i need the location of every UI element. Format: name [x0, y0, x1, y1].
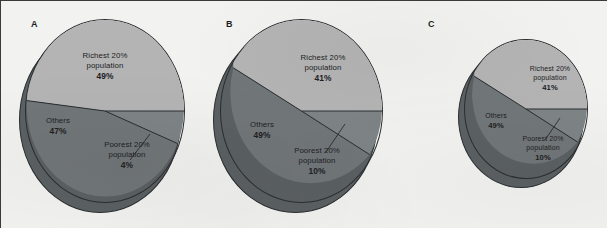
label-richest-a-pct: 49% [55, 71, 155, 81]
label-richest-c: Richest 20% population 41% [504, 65, 596, 92]
pie-chart-a: Richest 20% population 49% Others 47% Po… [19, 19, 189, 214]
label-poorest-b-line2: population [271, 156, 363, 166]
pie-panel-b: B [201, 1, 406, 228]
label-others-b-line1: Others [231, 120, 293, 130]
label-poorest-c: Poorest 20% population 10% [500, 135, 586, 162]
label-richest-b-pct: 41% [273, 73, 373, 83]
label-poorest-a-pct: 4% [81, 160, 173, 170]
pie-chart-c: Richest 20% population 41% Others 49% Po… [458, 39, 598, 189]
label-richest-c-pct: 41% [504, 83, 596, 92]
label-poorest-b: Poorest 20% population 10% [271, 146, 363, 176]
label-richest-b-line2: population [273, 63, 373, 73]
label-others-c-line1: Others [468, 112, 524, 121]
pie-slices-a [26, 20, 184, 202]
label-others-a-pct: 47% [27, 126, 89, 136]
pie-face-a [25, 19, 185, 203]
label-poorest-c-line1: Poorest 20% [500, 135, 586, 144]
label-poorest-a-line2: population [81, 150, 173, 160]
panel-letter-c: C [428, 19, 435, 29]
label-richest-c-line2: population [504, 74, 596, 83]
label-richest-a: Richest 20% population 49% [55, 51, 155, 81]
label-others-c-pct: 49% [468, 121, 524, 130]
label-others-a-line1: Others [27, 116, 89, 126]
label-poorest-a-line1: Poorest 20% [81, 140, 173, 150]
label-others-c: Others 49% [468, 112, 524, 130]
label-richest-a-line1: Richest 20% [55, 51, 155, 61]
pie-panel-c: C [406, 1, 607, 228]
figure-panel: A [0, 0, 607, 228]
label-richest-b-line1: Richest 20% [273, 53, 373, 63]
label-richest-b: Richest 20% population 41% [273, 53, 373, 83]
label-richest-a-line2: population [55, 61, 155, 71]
label-others-b: Others 49% [231, 120, 293, 140]
pie-chart-b: Richest 20% population 41% Others 49% Po… [213, 19, 393, 214]
label-poorest-a: Poorest 20% population 4% [81, 140, 173, 170]
pie-panel-a: A [1, 1, 201, 228]
label-poorest-c-line2: population [500, 144, 586, 153]
label-poorest-b-line1: Poorest 20% [271, 146, 363, 156]
label-poorest-b-pct: 10% [271, 166, 363, 176]
label-poorest-c-pct: 10% [500, 153, 586, 162]
label-others-a: Others 47% [27, 116, 89, 136]
label-richest-c-line1: Richest 20% [504, 65, 596, 74]
label-others-b-pct: 49% [231, 130, 293, 140]
